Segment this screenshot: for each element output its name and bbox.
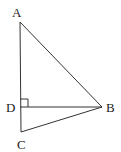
triangle-diagram: A D B C bbox=[0, 0, 121, 152]
segment-ab bbox=[20, 22, 102, 107]
label-b: B bbox=[106, 100, 115, 115]
label-c: C bbox=[17, 137, 26, 152]
segment-ac bbox=[20, 22, 21, 132]
label-a: A bbox=[12, 5, 22, 20]
label-d: D bbox=[6, 100, 15, 115]
segment-bc bbox=[21, 107, 102, 132]
